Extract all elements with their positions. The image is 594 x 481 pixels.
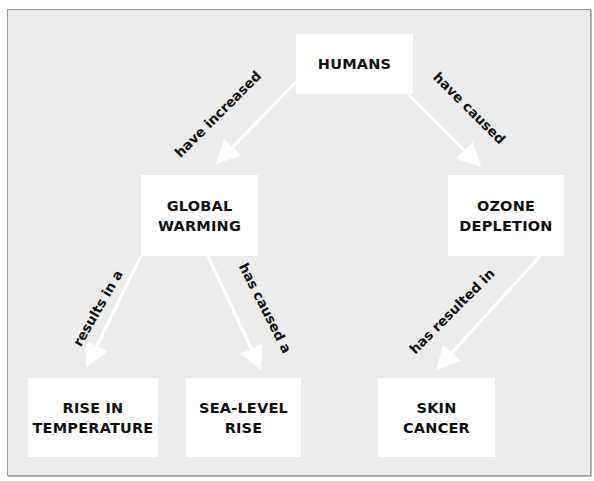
node-global-warming-label: GLOBAL WARMING: [158, 196, 241, 236]
node-sea-level-rise: SEA-LEVEL RISE: [186, 378, 301, 457]
node-global-warming: GLOBAL WARMING: [141, 175, 258, 256]
node-skin-cancer: SKIN CANCER: [378, 378, 495, 457]
node-ozone-depletion-label: OZONE DEPLETION: [459, 196, 552, 236]
node-skin-cancer-label: SKIN CANCER: [403, 398, 470, 438]
node-rise-in-temperature-label: RISE IN TEMPERATURE: [33, 398, 154, 438]
node-rise-in-temperature: RISE IN TEMPERATURE: [28, 378, 158, 457]
node-humans-label: HUMANS: [318, 54, 391, 74]
node-ozone-depletion: OZONE DEPLETION: [448, 175, 564, 256]
node-sea-level-rise-label: SEA-LEVEL RISE: [199, 398, 288, 438]
node-humans: HUMANS: [296, 34, 413, 94]
